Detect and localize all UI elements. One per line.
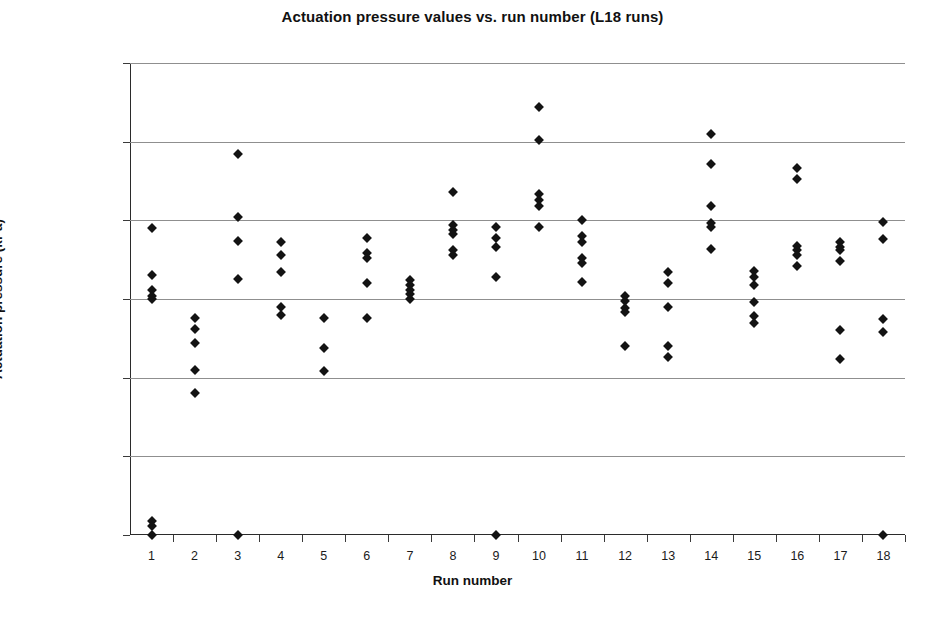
- x-axis-tick-label: 2: [191, 549, 198, 563]
- x-axis-tick: [216, 535, 217, 542]
- plot-area: 123456789101112131415161718: [130, 63, 905, 535]
- x-axis-tick: [819, 535, 820, 542]
- x-axis-tick: [173, 535, 174, 542]
- x-axis-tick-label: 7: [406, 549, 413, 563]
- x-axis-tick-label: 18: [877, 549, 891, 563]
- x-axis-tick-label: 6: [363, 549, 370, 563]
- x-axis-tick-label: 1: [148, 549, 155, 563]
- gridline-y: [130, 299, 905, 300]
- x-axis-tick-label: 5: [320, 549, 327, 563]
- y-axis-tick: [123, 378, 130, 379]
- x-axis-tick-label: 14: [704, 549, 718, 563]
- x-axis-tick: [474, 535, 475, 542]
- x-axis-tick: [905, 535, 906, 542]
- x-axis-tick: [259, 535, 260, 542]
- y-axis-tick: [123, 456, 130, 457]
- x-axis-tick-label: 11: [576, 549, 589, 563]
- gridline-y: [130, 63, 905, 64]
- x-axis-tick-label: 17: [833, 549, 847, 563]
- y-axis-tick: [123, 535, 130, 536]
- x-axis-tick-label: 10: [532, 549, 546, 563]
- x-axis-tick-label: 12: [618, 549, 632, 563]
- x-axis-tick: [647, 535, 648, 542]
- y-axis-tick: [123, 142, 130, 143]
- gridline-y: [130, 220, 905, 221]
- x-axis-tick: [345, 535, 346, 542]
- x-axis-tick-label: 15: [747, 549, 761, 563]
- gridline-y: [130, 456, 905, 457]
- x-axis-tick: [690, 535, 691, 542]
- x-axis-tick-label: 8: [449, 549, 456, 563]
- x-axis-tick: [518, 535, 519, 542]
- x-axis-title: Run number: [0, 573, 945, 588]
- x-axis-tick: [561, 535, 562, 542]
- y-axis-title: Actuation pressure (kPa): [0, 139, 5, 459]
- x-axis-tick: [776, 535, 777, 542]
- x-axis-tick: [431, 535, 432, 542]
- x-axis-tick: [862, 535, 863, 542]
- x-axis-tick-label: 13: [661, 549, 675, 563]
- x-axis-tick-label: 3: [234, 549, 241, 563]
- chart-figure: Actuation pressure values vs. run number…: [0, 0, 945, 617]
- x-axis-tick: [388, 535, 389, 542]
- y-axis-tick: [123, 220, 130, 221]
- gridline-y: [130, 142, 905, 143]
- x-axis-tick-label: 4: [277, 549, 284, 563]
- x-axis-tick: [302, 535, 303, 542]
- x-axis-tick-label: 16: [790, 549, 804, 563]
- gridline-y: [130, 378, 905, 379]
- chart-title: Actuation pressure values vs. run number…: [0, 8, 945, 25]
- x-axis-tick: [733, 535, 734, 542]
- x-axis-tick: [604, 535, 605, 542]
- y-axis-tick: [123, 299, 130, 300]
- x-axis-tick-label: 9: [492, 549, 499, 563]
- y-axis-tick: [123, 63, 130, 64]
